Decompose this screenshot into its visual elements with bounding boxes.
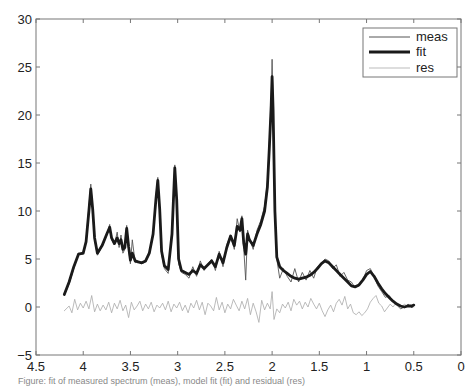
x-tick-label: 3.5 xyxy=(121,359,139,374)
x-tick-label: 3 xyxy=(174,359,181,374)
x-tick-label: 0.5 xyxy=(405,359,423,374)
y-tick-label: 0 xyxy=(25,300,32,315)
y-tick-label: 30 xyxy=(18,12,32,27)
x-tick-label: 4 xyxy=(80,359,87,374)
x-tick-label: 1.5 xyxy=(310,359,328,374)
x-tick-label: 2 xyxy=(268,359,275,374)
y-tick-label: 5 xyxy=(25,252,32,267)
legend-label-fit: fit xyxy=(416,44,427,59)
y-tick-label: 25 xyxy=(18,60,32,75)
y-tick-label: 15 xyxy=(18,156,32,171)
figure-caption: Figure: fit of measured spectrum (meas),… xyxy=(18,376,305,386)
spectrum-chart: 302520151050−5 4.543.532.521.510.50 meas… xyxy=(0,0,476,386)
y-tick-label: 10 xyxy=(18,204,32,219)
y-tick-label: 20 xyxy=(18,108,32,123)
x-tick-label: 2.5 xyxy=(216,359,234,374)
x-tick-label: 4.5 xyxy=(27,359,45,374)
legend: meas fit res xyxy=(363,28,457,77)
legend-label-res: res xyxy=(416,60,435,75)
x-tick-label: 1 xyxy=(363,359,370,374)
x-tick-label: 0 xyxy=(457,359,464,374)
legend-label-meas: meas xyxy=(416,29,448,44)
